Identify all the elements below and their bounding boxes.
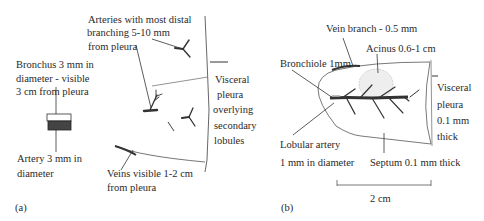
artery-shape [48, 121, 71, 130]
arteries-label-line-2: branching 5-10 mm [87, 26, 170, 39]
panel-a-tag: (a) [15, 201, 27, 214]
artery-label-line-1: Artery 3 mm in [17, 152, 82, 165]
visceral-pleura-line-b [431, 60, 432, 146]
bronchiole-label: Bronchiole 1mm [280, 57, 351, 70]
arteries-leader-2 [136, 45, 151, 108]
panel-b-tag: (b) [281, 201, 293, 214]
septum-line-a [152, 77, 208, 86]
bronchus-label-line-1: Bronchus 3 mm in [16, 58, 94, 71]
lobular-artery-label-line-1: Lobular artery [280, 138, 340, 151]
veins-label-line-1: Veins visible 1-2 cm [107, 167, 193, 180]
scale-bar [337, 180, 431, 186]
bronchus-label-line-3: 3 cm from pleura [16, 85, 89, 98]
pleura-a-label-line-5: lobules [214, 134, 244, 147]
visceral-pleura-line-a [205, 16, 209, 172]
distal-artery-top [175, 40, 190, 57]
vein-branch-label: Vein branch - 0.5 mm [326, 22, 417, 35]
acinus-label: Acinus 0.6-1 cm [366, 42, 436, 55]
small-vessel-a [168, 122, 174, 131]
pleura-a-label-line-3: overlying [213, 103, 253, 116]
distal-artery-right [182, 108, 195, 126]
branching-artery [144, 90, 162, 111]
arteries-label-line-1: Arteries with most distal [88, 13, 192, 26]
pleura-b-label-line-1: Visceral [437, 81, 471, 94]
arteries-label-line-3: from pleura [88, 40, 137, 53]
lobular-artery-label-line-2: 1 mm in diameter [280, 156, 354, 169]
lobular-artery-leader [293, 103, 334, 135]
artery-label-line-2: diameter [17, 167, 54, 180]
acinus-shape [359, 69, 393, 99]
veins-label-line-2: from pleura [107, 181, 156, 194]
pleura-b-label-line-3: 0.1 mm [437, 114, 469, 127]
pleura-a-label-line-2: pleura [217, 88, 243, 101]
pleura-a-label-line-1: Visceral [215, 73, 249, 86]
bronchus-shape [47, 114, 71, 121]
bronchus-label-line-2: diameter - visible [16, 72, 89, 85]
scale-label: 2 cm [370, 192, 391, 205]
pleura-a-label-line-4: secondary [214, 119, 257, 132]
vein-curve [115, 146, 205, 162]
septum-label: Septum 0.1 mm thick [370, 156, 460, 169]
pleura-b-label-line-2: pleura [437, 98, 463, 111]
pleura-b-label-line-4: thick [437, 130, 458, 143]
